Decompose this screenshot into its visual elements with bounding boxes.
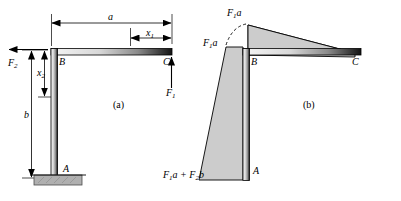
moment-area-AB <box>199 47 243 180</box>
moment-label-A: F1a + F2b <box>163 170 204 180</box>
dimension-label-x1: x1 <box>146 28 154 38</box>
column-AB-b <box>243 49 250 181</box>
force-label-F2: F2 <box>8 58 18 68</box>
label-point-C: C <box>163 57 170 67</box>
dimension-label-b: b <box>24 110 29 120</box>
dimension-label-a: a <box>108 12 113 22</box>
dimension-label-x2: x2 <box>37 68 45 78</box>
moment-label-B-top: F1a <box>227 8 242 18</box>
moment-transfer-arc <box>226 24 246 45</box>
beam-BC <box>51 49 172 56</box>
label-point-A: A <box>63 164 69 174</box>
label-point-B: B <box>59 57 65 67</box>
moment-label-B-side: F1a <box>203 38 218 48</box>
panel-label-a: (a) <box>113 100 124 110</box>
engineering-figure: A B C a x1 b x2 F2 F1 (a) A B C F1a F1a <box>0 0 401 201</box>
panel-label-b: (b) <box>303 100 315 110</box>
panel-b-group <box>199 24 361 181</box>
column-AB <box>51 49 58 176</box>
force-label-F1: F1 <box>166 88 176 98</box>
beam-BC-b <box>243 49 361 56</box>
label-point-A-b: A <box>253 166 259 176</box>
panel-a-group <box>9 14 172 185</box>
label-point-B-b: B <box>251 57 257 67</box>
label-point-C-b: C <box>352 57 359 67</box>
